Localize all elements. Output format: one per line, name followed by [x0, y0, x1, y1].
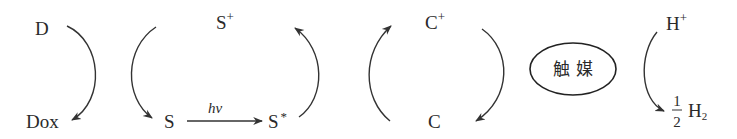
donor-label: D [35, 18, 49, 39]
sensitizer-oxidized-label: S+ [216, 9, 234, 33]
fraction-numerator: 1 [673, 93, 681, 109]
carrier-oxidized-label: C+ [425, 9, 445, 33]
catalyst-label: 触 媒 [553, 59, 592, 79]
photocatalysis-diagram: D Dox S+ S hν S* C+ C 触 媒 [0, 0, 737, 139]
hydrogen-molecule-label: H2 [688, 100, 707, 122]
sensitizer-reduction-arrow [131, 27, 156, 118]
excitation-label: hν [208, 100, 223, 116]
sensitizer-ground-label: S [164, 111, 175, 132]
donor-oxidation-arrow [67, 26, 95, 120]
fraction-denominator: 2 [673, 114, 681, 130]
carrier-reduction-arrow [476, 29, 504, 121]
proton-label: H+ [666, 10, 687, 34]
sensitizer-excited-label: S* [268, 109, 287, 132]
carrier-oxidation-arrow [369, 26, 391, 121]
hydrogen-product: 1 2 H2 [672, 93, 707, 130]
proton-reduction-arrow [644, 32, 664, 111]
donor-oxidized-label: Dox [26, 111, 59, 132]
carrier-reduced-label: C [428, 111, 441, 132]
electron-injection-arrow [295, 28, 319, 117]
